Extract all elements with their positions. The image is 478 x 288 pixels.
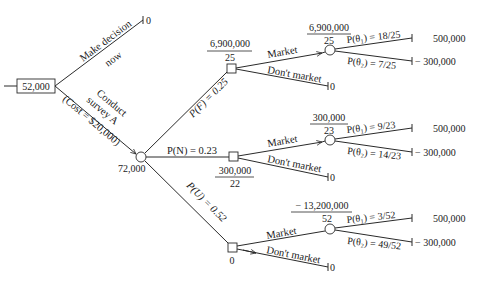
conduct-survey-branch: Conduct survey A (Cost = $20,000) 72,000 (55, 86, 146, 174)
branch-favorable: 6,900,000 25 Market Don't market 0 6,900… (207, 22, 466, 92)
chance-f-den: 25 (324, 35, 334, 46)
prob-f-label: P(F) = 0.25 (186, 76, 231, 121)
dont-market-payoff-u: 0 (330, 262, 335, 273)
chance-node-u (325, 224, 335, 234)
decision-node-u (228, 243, 237, 252)
root-decision-node: 52,000 (4, 79, 55, 93)
payoff2-f: − 300,000 (415, 56, 456, 67)
decision-node-n (229, 152, 238, 161)
dont-market-label-n: Don't market (267, 153, 323, 174)
chance-n-den: 23 (324, 125, 334, 136)
make-decision-now-branch: 0 Make decision now (55, 15, 151, 86)
decision-tree: 52,000 0 Make decision now Conduct surve… (0, 0, 478, 288)
payoff1-f: 500,000 (433, 33, 466, 44)
survey-chance-node (136, 152, 146, 162)
chance-node-n (325, 135, 335, 145)
chance-u-num: − 13,200,000 (295, 200, 348, 211)
dont-market-label-u: Don't market (266, 244, 322, 265)
decision-n-num: 300,000 (219, 165, 252, 176)
theta2-label-u: P(θ₂) = 49/52 (347, 235, 402, 253)
prob-n-label: P(N) = 0.23 (167, 145, 217, 157)
dont-market-label-f: Don't market (267, 64, 323, 84)
make-decision-payoff: 0 (146, 15, 151, 26)
decision-f-num: 6,900,000 (210, 38, 250, 49)
decision-n-den: 22 (230, 178, 240, 189)
chance-node-f (325, 45, 335, 55)
chance-n-num: 300,000 (313, 112, 346, 123)
survey-node-value: 72,000 (118, 163, 146, 174)
dont-market-payoff-n: 0 (330, 172, 335, 183)
payoff2-u: − 300,000 (415, 237, 456, 248)
chance-f-num: 6,900,000 (309, 22, 349, 33)
branch-unfavorable: 0 Market Don't market 0 − 13,200,000 52 … (228, 200, 466, 273)
make-decision-label-2: now (103, 49, 124, 69)
root-value: 52,000 (22, 81, 50, 92)
payoff2-n: − 300,000 (415, 147, 456, 158)
prob-u-label: P(U) = 0.52 (183, 179, 229, 225)
chance-u-den: 52 (322, 213, 332, 224)
theta2-label-n: P(θ₂) = 14/23 (347, 145, 402, 163)
dont-market-payoff-f: 0 (330, 81, 335, 92)
payoff1-n: 500,000 (433, 123, 466, 134)
payoff1-u: 500,000 (433, 213, 466, 224)
decision-node-f (227, 64, 236, 73)
branch-neutral: 300,000 22 Market Don't market 0 300,000… (215, 112, 466, 189)
decision-f-den: 25 (225, 52, 235, 63)
decision-u-value: 0 (230, 255, 235, 266)
